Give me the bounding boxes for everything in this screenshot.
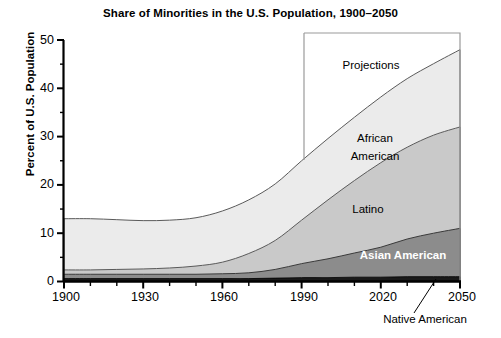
- label-native-american: Native American: [370, 313, 480, 325]
- stacked-areas: [64, 50, 460, 282]
- label-projections: Projections: [316, 59, 426, 71]
- native-american-leader-line: [414, 279, 436, 313]
- label-african-american-line2: American: [330, 150, 420, 162]
- chart-figure: Share of Minorities in the U.S. Populati…: [0, 0, 501, 338]
- label-asian-american: Asian American: [343, 249, 463, 261]
- label-latino: Latino: [323, 203, 413, 215]
- plot-area: [0, 0, 501, 338]
- label-african-american-line1: African: [330, 132, 420, 144]
